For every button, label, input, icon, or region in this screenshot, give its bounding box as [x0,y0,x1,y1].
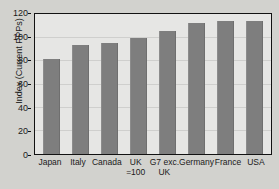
bar[interactable] [101,43,118,154]
x-axis-tick-label: G7 exc.UK [150,157,179,177]
x-axis-tick-label: Italy [64,157,92,177]
y-axis-tick-mark [28,37,31,38]
x-axis-tick-label-line1: Germany [179,157,214,167]
y-axis-tick-label: 100 [13,32,28,42]
x-axis-tick-label-line1: G7 exc. [150,157,179,167]
y-axis-tick-mark [28,60,31,61]
x-axis-tick-label: Canada [92,157,122,177]
x-axis-tick-label-line1: Italy [70,157,86,167]
y-axis-tick-label: 40 [18,103,28,113]
y-axis-tick-label: 120 [13,8,28,18]
x-axis-tick-label: UK=100 [122,157,150,177]
bar[interactable] [43,59,60,154]
x-axis-tick-label: France [214,157,242,177]
y-axis-tick-label: 20 [18,126,28,136]
bar-chart-figure: Index (Current PPPs) 020406080100120 Jap… [0,0,279,189]
bar-slot [37,14,66,154]
x-axis-tick-label-line2: UK [150,167,179,177]
bar[interactable] [188,23,205,154]
x-axis-tick-label-line2: =100 [122,167,150,177]
x-axis-tick-label-line1: UK [130,157,142,167]
bar-slot [124,14,153,154]
bar-slot [211,14,240,154]
bar-slot [182,14,211,154]
bar[interactable] [72,45,89,154]
x-axis-tick-label: Germany [179,157,214,177]
x-axis-tick-label-line1: France [215,157,241,167]
bar-slot [153,14,182,154]
y-axis-tick-labels: 020406080100120 [0,13,31,155]
bar[interactable] [130,38,147,154]
bar-slot [95,14,124,154]
y-axis-tick-label: 60 [18,79,28,89]
bars-container [35,14,271,154]
y-axis-tick-mark [28,131,31,132]
bar[interactable] [217,21,234,154]
x-axis-tick-label: USA [242,157,270,177]
bar[interactable] [246,21,263,154]
x-axis-tick-label-line1: Canada [92,157,122,167]
plot-area [34,13,272,155]
y-axis-tick-mark [28,155,31,156]
y-axis-tick-label: 80 [18,55,28,65]
bar[interactable] [159,31,176,154]
bar-slot [240,14,269,154]
x-axis-tick-label: Japan [36,157,64,177]
bar-slot [66,14,95,154]
x-axis-tick-label-line1: USA [247,157,264,167]
y-axis-tick-mark [28,84,31,85]
y-axis-tick-mark [28,108,31,109]
x-axis-tick-labels: JapanItalyCanadaUK=100G7 exc.UKGermanyFr… [34,157,272,177]
x-axis-tick-label-line1: Japan [38,157,61,167]
y-axis-tick-mark [28,13,31,14]
